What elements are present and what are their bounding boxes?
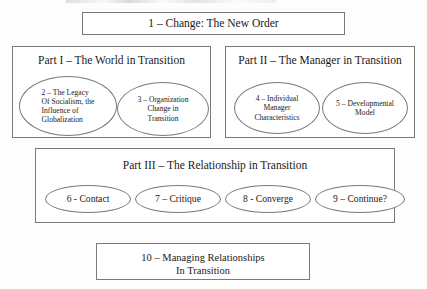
chapter-2-line-1: 2 – The Legacy	[42, 88, 95, 97]
part-2-title: Part II – The Manager in Transition	[226, 54, 414, 66]
part-1-title: Part I – The World in Transition	[13, 54, 210, 66]
chapter-2-ellipse: 2 – The Legacy Of Socialism, the Influen…	[19, 76, 117, 136]
top-box-label: 1 – Change: The New Order	[83, 17, 344, 29]
chapter-3-ellipse: 3 – Organization Change in Transition	[117, 82, 209, 136]
chapter-7-label: 7 – Critique	[151, 193, 205, 205]
bottom-box-line-2: In Transition	[97, 264, 309, 277]
chapter-8-ellipse: 8 - Converge	[225, 185, 311, 213]
chapter-5-ellipse: 5 – Developmental Model	[322, 82, 408, 134]
bottom-box-label: 10 – Managing Relationships In Transitio…	[97, 251, 309, 277]
chapter-4-ellipse: 4 – Individual Manager Characteristics	[234, 82, 320, 134]
chapter-3-line-3: Transition	[138, 114, 189, 123]
chapter-2-line-3: Influence of	[42, 106, 95, 115]
top-box-chapter-1: 1 – Change: The New Order	[82, 12, 345, 35]
chapter-3-label: 3 – Organization Change in Transition	[134, 95, 193, 123]
chapter-5-line-2: Model	[336, 108, 394, 117]
chapter-4-line-3: Characteristics	[254, 113, 299, 122]
chapter-3-line-1: 3 – Organization	[138, 95, 189, 104]
chapter-3-line-2: Change in	[138, 104, 189, 113]
chapter-5-line-1: 5 – Developmental	[336, 99, 394, 108]
chapter-7-ellipse: 7 – Critique	[135, 185, 221, 213]
chapter-6-label: 6 - Contact	[63, 193, 114, 205]
part-3-title: Part III – The Relationship in Transitio…	[36, 159, 394, 171]
chapter-2-line-2: Of Socialism, the	[42, 97, 95, 106]
chapter-2-line-4: Globalization	[42, 115, 95, 124]
chapter-9-label: 9 – Continue?	[329, 193, 391, 205]
chapter-9-ellipse: 9 – Continue?	[315, 185, 405, 213]
chapter-4-line-1: 4 – Individual	[254, 94, 299, 103]
chapter-4-label: 4 – Individual Manager Characteristics	[250, 94, 303, 122]
chapter-5-label: 5 – Developmental Model	[332, 99, 398, 118]
bottom-box-line-1: 10 – Managing Relationships	[97, 251, 309, 264]
chapter-8-label: 8 - Converge	[239, 193, 297, 205]
chapter-2-label: 2 – The Legacy Of Socialism, the Influen…	[38, 88, 99, 125]
chapter-6-ellipse: 6 - Contact	[45, 185, 131, 213]
bottom-box-chapter-10: 10 – Managing Relationships In Transitio…	[96, 243, 310, 280]
diagram-canvas: 1 – Change: The New Order Part I – The W…	[0, 0, 427, 289]
scan-artifact-top-sliver	[66, 0, 276, 3]
chapter-4-line-2: Manager	[254, 103, 299, 112]
